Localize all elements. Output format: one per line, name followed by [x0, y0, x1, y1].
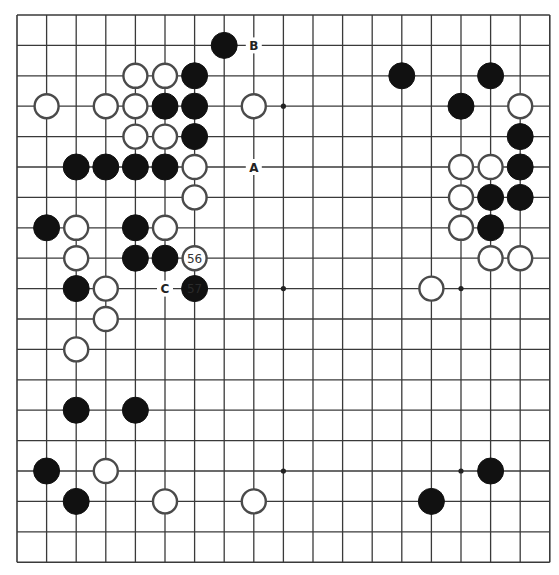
white-stone — [479, 155, 503, 179]
white-stone-disc — [449, 155, 473, 179]
white-stone-disc — [508, 94, 532, 118]
white-stone — [242, 489, 266, 513]
black-stone — [34, 458, 60, 484]
white-stone — [449, 216, 473, 240]
black-stone-disc — [93, 154, 119, 180]
white-stone — [183, 185, 207, 209]
black-stone-disc — [182, 93, 208, 119]
white-stone — [153, 125, 177, 149]
go-board: BAC 5657 — [0, 0, 559, 575]
black-stone — [478, 184, 504, 210]
black-stone — [182, 63, 208, 89]
black-stone-disc — [448, 93, 474, 119]
white-stone — [64, 216, 88, 240]
white-stone-disc — [35, 94, 59, 118]
black-stone-disc — [122, 397, 148, 423]
black-stone-disc — [152, 93, 178, 119]
white-stone — [94, 459, 118, 483]
white-stone — [449, 155, 473, 179]
white-stone — [94, 307, 118, 331]
hoshi-point — [281, 468, 286, 473]
white-stone — [419, 277, 443, 301]
marker-label: A — [249, 161, 259, 175]
white-stone: 56 — [183, 246, 207, 270]
marker-label: C — [161, 282, 170, 296]
white-stone-disc — [64, 216, 88, 240]
white-stone — [123, 94, 147, 118]
black-stone-disc — [152, 245, 178, 271]
white-stone — [35, 94, 59, 118]
hoshi-point — [281, 104, 286, 109]
black-stone-disc — [507, 184, 533, 210]
black-stone — [448, 93, 474, 119]
white-stone-disc — [183, 155, 207, 179]
white-stone-disc — [94, 94, 118, 118]
white-stone — [508, 246, 532, 270]
black-stone-disc — [478, 458, 504, 484]
black-stone — [507, 184, 533, 210]
white-stone-disc — [242, 489, 266, 513]
black-stone — [152, 245, 178, 271]
black-stone-disc — [122, 154, 148, 180]
marker-a: A — [246, 159, 262, 175]
black-stone-disc — [152, 154, 178, 180]
white-stone-disc — [242, 94, 266, 118]
black-stone-disc — [122, 245, 148, 271]
black-stone-disc — [507, 124, 533, 150]
black-stone-disc — [122, 215, 148, 241]
move-number: 56 — [187, 252, 202, 266]
white-stone-disc — [153, 64, 177, 88]
white-stone — [242, 94, 266, 118]
white-stone — [123, 64, 147, 88]
white-stone-disc — [94, 277, 118, 301]
black-stone — [211, 32, 237, 58]
white-stone-disc — [153, 489, 177, 513]
black-stone — [63, 154, 89, 180]
white-stone-disc — [94, 459, 118, 483]
marker-label: B — [249, 39, 258, 53]
black-stone — [478, 63, 504, 89]
black-stone — [63, 276, 89, 302]
white-stone-disc — [123, 64, 147, 88]
white-stone-disc — [153, 216, 177, 240]
white-stone — [64, 246, 88, 270]
marker-b: B — [246, 37, 262, 53]
black-stone-disc — [211, 32, 237, 58]
white-stone — [94, 277, 118, 301]
white-stone-disc — [449, 185, 473, 209]
white-stone-disc — [183, 185, 207, 209]
black-stone — [507, 154, 533, 180]
move-number: 57 — [187, 282, 202, 296]
black-stone — [122, 215, 148, 241]
hoshi-point — [458, 468, 463, 473]
white-stone — [123, 125, 147, 149]
white-stone — [153, 489, 177, 513]
black-stone — [63, 488, 89, 514]
black-stone-disc — [182, 124, 208, 150]
white-stone-disc — [153, 125, 177, 149]
black-stone-disc — [63, 276, 89, 302]
black-stone-disc — [182, 63, 208, 89]
black-stone-disc — [389, 63, 415, 89]
go-board-svg: BAC 5657 — [0, 0, 559, 575]
black-stone — [507, 124, 533, 150]
white-stone-disc — [123, 125, 147, 149]
black-stone — [418, 488, 444, 514]
black-stone-disc — [507, 154, 533, 180]
white-stone — [64, 337, 88, 361]
white-stone — [153, 216, 177, 240]
black-stone-disc — [418, 488, 444, 514]
black-stone — [34, 215, 60, 241]
black-stone — [122, 397, 148, 423]
black-stone-disc — [63, 397, 89, 423]
white-stone-disc — [479, 246, 503, 270]
black-stone: 57 — [182, 276, 208, 302]
black-stone — [478, 215, 504, 241]
black-stone — [122, 245, 148, 271]
black-stone — [122, 154, 148, 180]
black-stone-disc — [34, 215, 60, 241]
white-stone — [183, 155, 207, 179]
black-stone — [63, 397, 89, 423]
hoshi-point — [458, 286, 463, 291]
black-stone-disc — [34, 458, 60, 484]
